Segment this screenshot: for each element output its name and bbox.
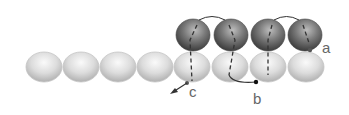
point-a-dot bbox=[308, 48, 312, 52]
thread-arc bbox=[199, 17, 225, 21]
label-a: a bbox=[322, 39, 331, 56]
label-c: c bbox=[189, 83, 197, 100]
bead-diagram: a b c bbox=[0, 0, 349, 115]
point-b-dot bbox=[254, 80, 258, 84]
thread-arc bbox=[274, 17, 299, 21]
dark-bead bbox=[288, 19, 322, 51]
top-bead-row bbox=[176, 19, 322, 51]
dark-bead bbox=[214, 19, 248, 51]
light-bead bbox=[174, 52, 210, 82]
bead-diagram-canvas: a b c bbox=[0, 0, 349, 115]
light-bead bbox=[137, 52, 173, 82]
label-b: b bbox=[253, 90, 261, 107]
light-bead bbox=[288, 52, 324, 82]
light-bead bbox=[100, 52, 136, 82]
bottom-bead-row bbox=[26, 52, 324, 82]
arrow-head-icon bbox=[170, 88, 178, 94]
light-bead bbox=[63, 52, 99, 82]
light-bead bbox=[26, 52, 62, 82]
